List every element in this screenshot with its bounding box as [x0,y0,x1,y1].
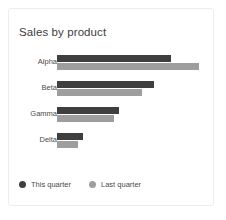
circle-dot-icon [89,181,96,188]
bar-track [57,133,211,149]
bar-gamma-this-quarter[interactable] [57,107,119,114]
category-label: Gamma [0,109,57,118]
bar-delta-last-quarter[interactable] [57,141,78,148]
bar-chart-plot-area: AlphaBetaGammaDelta [9,53,215,165]
bar-group-gamma: Gamma [9,107,215,123]
circle-dot-icon [19,181,26,188]
bar-beta-this-quarter[interactable] [57,81,154,88]
chart-legend: This quarterLast quarter [19,180,141,189]
category-label: Alpha [0,57,57,66]
bar-group-beta: Beta [9,81,215,97]
category-label: Delta [0,135,57,144]
legend-label: This quarter [31,180,71,189]
bar-gamma-last-quarter[interactable] [57,115,114,122]
bar-beta-last-quarter[interactable] [57,89,142,96]
bar-group-delta: Delta [9,133,215,149]
category-label: Beta [0,83,57,92]
bar-track [57,81,211,97]
bar-track [57,55,211,71]
legend-item-this-quarter[interactable]: This quarter [19,180,71,189]
legend-item-last-quarter[interactable]: Last quarter [89,180,141,189]
bar-delta-this-quarter[interactable] [57,133,83,140]
bar-track [57,107,211,123]
legend-label: Last quarter [101,180,141,189]
chart-card: Sales by product AlphaBetaGammaDelta Thi… [8,8,214,206]
bar-group-alpha: Alpha [9,55,215,71]
bar-alpha-this-quarter[interactable] [57,55,171,62]
chart-title: Sales by product [19,26,106,38]
bar-alpha-last-quarter[interactable] [57,63,199,70]
